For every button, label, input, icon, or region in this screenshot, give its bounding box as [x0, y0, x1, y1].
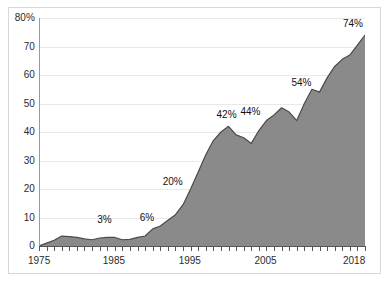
x-axis-tickmark — [221, 247, 222, 251]
x-axis-tick-label: 1985 — [103, 256, 125, 266]
x-axis-tickmark — [153, 247, 154, 251]
x-axis-line — [39, 246, 366, 247]
y-axis-tick-label: 30 — [24, 156, 35, 166]
x-axis-tick-label: 1995 — [179, 256, 201, 266]
area-fill — [39, 35, 365, 246]
x-axis-tickmark — [175, 247, 176, 251]
x-axis-tickmark — [47, 247, 48, 251]
x-axis-tickmark — [320, 247, 321, 251]
x-axis-tickmark — [107, 247, 108, 251]
x-axis-tickmark — [259, 247, 260, 251]
x-axis-tickmark — [229, 247, 230, 251]
y-axis-tick-label: 60 — [24, 70, 35, 80]
y-axis-line — [39, 18, 40, 247]
x-axis-tickmark — [92, 247, 93, 251]
data-point-label: 74% — [343, 19, 363, 29]
x-axis-tickmark — [289, 247, 290, 251]
x-axis-tickmark — [297, 247, 298, 251]
x-axis-tickmark — [327, 247, 328, 251]
data-point-label: 3% — [97, 215, 111, 225]
x-axis-tickmark — [191, 247, 192, 251]
x-axis-tickmark — [122, 247, 123, 251]
data-point-label: 42% — [217, 110, 237, 120]
x-axis-tickmark — [213, 247, 214, 251]
x-axis-tick-label: 1975 — [28, 256, 50, 266]
y-axis-tick-label: 0 — [29, 241, 35, 251]
x-axis-tickmark — [251, 247, 252, 251]
x-axis-tickmark — [304, 247, 305, 251]
x-axis-tickmark — [365, 247, 366, 251]
x-axis-tickmark — [236, 247, 237, 251]
x-axis-tickmark — [274, 247, 275, 251]
x-axis-tickmark — [266, 247, 267, 251]
x-axis-tickmark — [160, 247, 161, 251]
x-axis-tickmark — [138, 247, 139, 251]
data-point-label: 20% — [163, 177, 183, 187]
x-axis-tickmark — [282, 247, 283, 251]
x-axis-tickmark — [183, 247, 184, 251]
x-axis-tickmark — [206, 247, 207, 251]
x-axis-tickmark — [198, 247, 199, 251]
y-axis-tick-labels: 80%706050403020100 — [9, 18, 35, 246]
y-axis-tick-label: 40 — [24, 127, 35, 137]
x-axis-tickmark — [39, 247, 40, 251]
x-axis-tickmark — [244, 247, 245, 251]
x-axis-tickmark — [335, 247, 336, 251]
x-axis-tick-label: 2005 — [254, 256, 276, 266]
x-axis-tickmark — [130, 247, 131, 251]
x-axis-tickmark — [168, 247, 169, 251]
x-axis-tickmark — [350, 247, 351, 251]
plot-wrapper: 80%706050403020100 19751985199520052018 … — [9, 8, 380, 273]
y-axis-tick-label: 50 — [24, 99, 35, 109]
y-axis-tick-label: 10 — [24, 213, 35, 223]
x-axis-tickmark — [54, 247, 55, 251]
x-axis-tickmark — [312, 247, 313, 251]
x-axis-tickmark — [77, 247, 78, 251]
data-point-label: 54% — [292, 78, 312, 88]
x-axis-tickmark — [115, 247, 116, 251]
x-axis-tickmark — [62, 247, 63, 251]
data-point-label: 6% — [140, 213, 154, 223]
data-point-label: 44% — [240, 107, 260, 117]
chart-figure: 80%706050403020100 19751985199520052018 … — [8, 7, 381, 274]
x-axis-tickmark — [145, 247, 146, 251]
x-axis-tickmark — [84, 247, 85, 251]
area-series — [39, 18, 365, 246]
y-axis-tick-label: 70 — [24, 42, 35, 52]
x-axis-tickmark — [69, 247, 70, 251]
y-axis-tick-label: 80% — [15, 13, 35, 23]
plot-area — [39, 18, 365, 246]
x-axis-tick-label: 2018 — [343, 256, 365, 266]
x-axis-tickmark — [100, 247, 101, 251]
y-axis-tick-label: 20 — [24, 184, 35, 194]
x-axis-tickmark — [342, 247, 343, 251]
x-axis-tickmark — [357, 247, 358, 251]
